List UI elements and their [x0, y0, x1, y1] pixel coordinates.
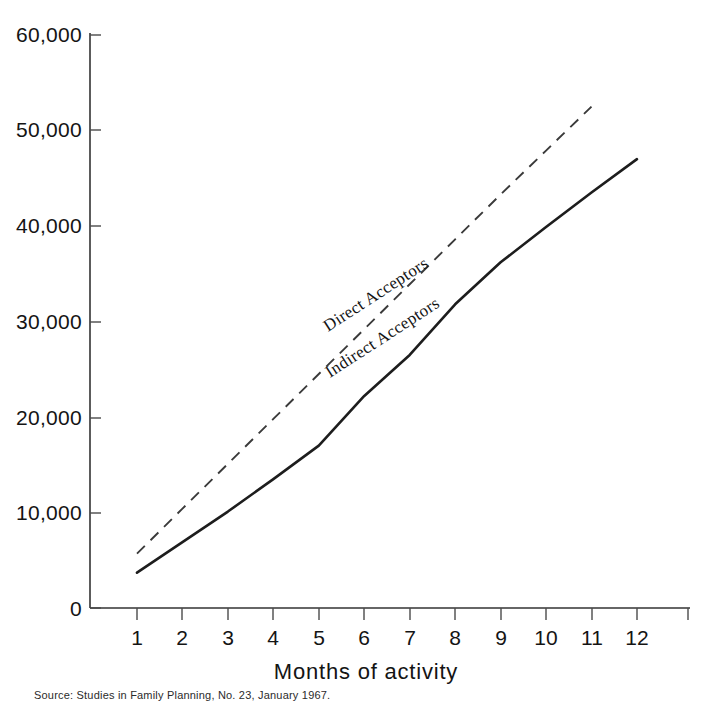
- y-tick-label-20000: 20,000: [16, 406, 82, 429]
- y-tick-label-40000: 40,000: [16, 214, 82, 237]
- figure-source-caption: Source: Studies in Family Planning, No. …: [34, 689, 330, 701]
- x-axis-title: Months of activity: [274, 659, 458, 684]
- chart-figure: 60,000 50,000 40,000 30,000 20,000 10,00…: [0, 0, 718, 702]
- y-tick-label-50000: 50,000: [16, 118, 82, 141]
- y-tick-label-10000: 10,000: [16, 501, 82, 524]
- x-tick-label-11: 11: [581, 626, 603, 649]
- x-tick-label-7: 7: [404, 626, 416, 649]
- x-tick-label-6: 6: [358, 626, 370, 649]
- x-tick-label-5: 5: [313, 626, 325, 649]
- y-axis-ticks: 60,000 50,000 40,000 30,000 20,000 10,00…: [16, 23, 101, 620]
- series-line-direct-acceptors: [137, 107, 592, 554]
- x-tick-label-4: 4: [267, 626, 279, 649]
- x-tick-label-2: 2: [176, 626, 188, 649]
- x-tick-label-1: 1: [131, 626, 143, 649]
- series-line-indirect-acceptors: [137, 159, 637, 573]
- x-tick-label-9: 9: [495, 626, 507, 649]
- y-tick-label-0: 0: [70, 597, 82, 620]
- x-tick-label-12: 12: [625, 626, 648, 649]
- x-tick-label-10: 10: [534, 626, 557, 649]
- x-tick-label-8: 8: [449, 626, 461, 649]
- line-chart-plot: 60,000 50,000 40,000 30,000 20,000 10,00…: [0, 0, 718, 702]
- y-tick-label-60000: 60,000: [16, 23, 82, 46]
- x-axis-ticks: 1 2 3 4 5 6 7 8 9 10 11 12: [131, 608, 688, 649]
- y-tick-label-30000: 30,000: [16, 310, 82, 333]
- x-tick-label-3: 3: [222, 626, 234, 649]
- series-annotations: Direct Acceptors Indirect Acceptors: [320, 253, 443, 381]
